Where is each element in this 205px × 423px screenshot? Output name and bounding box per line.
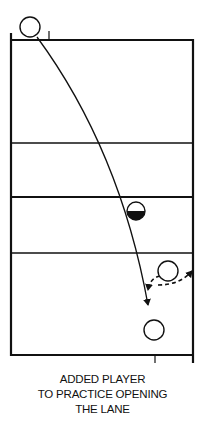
court-lines [11,143,193,253]
caption-line-2: TO PRACTICE OPENING [0,387,205,402]
court-diagram [0,0,205,423]
diagram-caption: ADDED PLAYER TO PRACTICE OPENING THE LAN… [0,372,205,417]
caption-line-3: THE LANE [0,402,205,417]
added-player-icon [158,261,178,281]
main-run-arrow [37,37,148,305]
top-player-icon [20,17,40,37]
caption-line-1: ADDED PLAYER [0,372,205,387]
bottom-player-icon [144,320,164,340]
defender-half-filled-icon [127,202,145,220]
cut-to-lane-arrow [148,276,160,290]
